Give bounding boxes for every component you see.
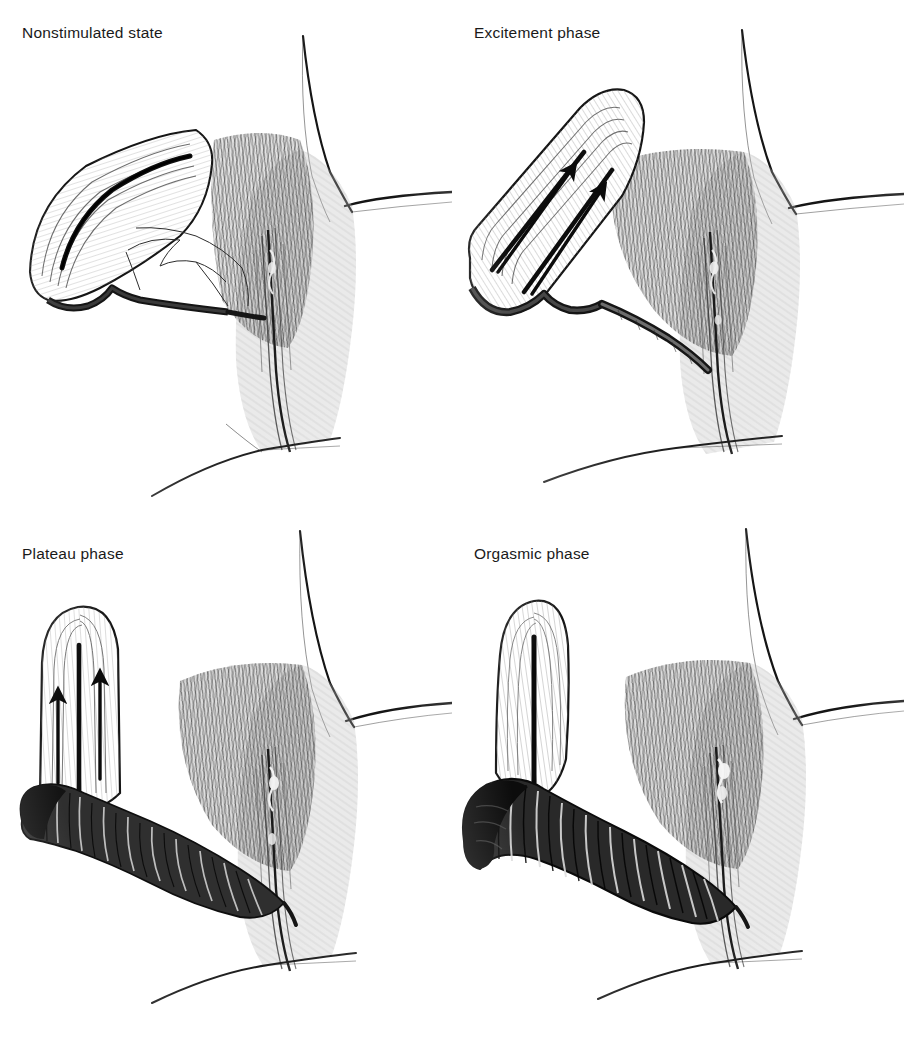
panel-label-plateau-phase: Plateau phase	[22, 545, 124, 563]
illustration-plateau-phase	[0, 521, 452, 1042]
illustration-excitement-phase	[452, 0, 904, 521]
panel-excitement-phase: Excitement phase	[452, 0, 904, 521]
illustration-nonstimulated-state	[0, 0, 452, 521]
panel-label-orgasmic-phase: Orgasmic phase	[474, 545, 590, 563]
panel-label-nonstimulated-state: Nonstimulated state	[22, 24, 163, 42]
panel-nonstimulated-state: Nonstimulated state	[0, 0, 452, 521]
illustration-orgasmic-phase	[452, 521, 904, 1042]
panel-label-excitement-phase: Excitement phase	[474, 24, 600, 42]
panel-orgasmic-phase: Orgasmic phase	[452, 521, 904, 1042]
panel-plateau-phase: Plateau phase	[0, 521, 452, 1042]
figure-root: Nonstimulated state	[0, 0, 904, 1043]
